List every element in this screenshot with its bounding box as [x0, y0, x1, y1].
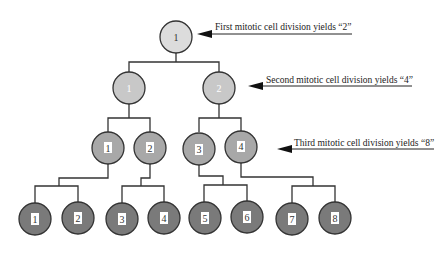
cell-level-4: 1 2 3 4 5 6 7 8	[19, 201, 351, 235]
annotation-second: Second mitotic cell division yields “4”	[248, 75, 413, 90]
arrow-left-icon	[277, 145, 292, 153]
annotation-label: Second mitotic cell division yields “4”	[266, 75, 413, 85]
cell-level-3: 1 2 3 4	[92, 131, 257, 165]
cell-number: 1	[106, 143, 111, 154]
cell-number: 4	[162, 213, 167, 224]
cell-number: 6	[245, 212, 250, 223]
annotation-label: Third mitotic cell division yields “8”	[294, 138, 434, 148]
annotation-label: First mitotic cell division yields “2”	[215, 22, 351, 32]
cell-number: 1	[174, 32, 179, 43]
cell-number: 2	[217, 83, 222, 94]
arrow-left-icon	[197, 30, 212, 38]
annotation-first: First mitotic cell division yields “2”	[197, 22, 352, 38]
cell-number: 3	[197, 144, 202, 155]
cell-number: 4	[239, 141, 244, 152]
cell-number: 5	[203, 213, 208, 224]
cell-number: 7	[290, 214, 295, 225]
cell-number: 8	[333, 213, 338, 224]
cell-number: 1	[33, 214, 38, 225]
cell-level-2: 1 2	[113, 72, 235, 104]
division-diagram: 1 1 2 1 2 3 4 1 2 3 4	[0, 0, 447, 255]
arrow-left-icon	[248, 82, 263, 90]
cell-level-1: 1	[160, 21, 192, 53]
cell-number: 2	[76, 213, 81, 224]
cell-number: 3	[120, 214, 125, 225]
cell-number: 1	[127, 83, 132, 94]
annotation-third: Third mitotic cell division yields “8”	[277, 138, 434, 153]
cell-number: 2	[148, 143, 153, 154]
